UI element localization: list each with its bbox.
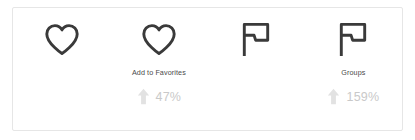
flag-icon[interactable] <box>234 19 278 59</box>
heart-icon[interactable] <box>40 19 84 59</box>
flag-icon[interactable] <box>331 19 375 59</box>
metric-column-groups[interactable]: Groups 159% <box>305 8 402 130</box>
metric-trend: 159% <box>327 88 379 105</box>
metrics-row: Add to Favorites 47% <box>13 8 402 130</box>
metric-value: 47% <box>156 90 182 104</box>
heart-icon[interactable] <box>137 19 181 59</box>
arrow-up-icon <box>327 88 340 105</box>
metric-label: Groups <box>341 68 365 78</box>
metric-column-favorites-icon-only[interactable] <box>13 8 110 130</box>
metric-column-add-to-favorites[interactable]: Add to Favorites 47% <box>110 8 207 130</box>
metrics-card: Add to Favorites 47% <box>12 7 403 131</box>
metric-value: 159% <box>346 90 379 104</box>
metric-column-groups-icon-only[interactable] <box>208 8 305 130</box>
metric-label: Add to Favorites <box>132 68 186 78</box>
arrow-up-icon <box>137 88 150 105</box>
metric-trend: 47% <box>137 88 182 105</box>
screenshot-root: Add to Favorites 47% <box>0 0 415 140</box>
